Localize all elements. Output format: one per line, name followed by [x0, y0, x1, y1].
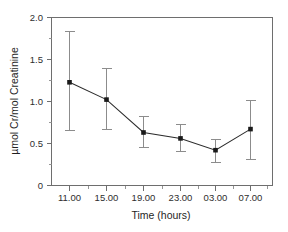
- data-point-1: [67, 80, 72, 85]
- series-line-creatinine: [70, 82, 251, 150]
- x-tick-label-07.00: 07.00: [239, 192, 263, 203]
- marker-group: [67, 80, 253, 153]
- x-tick-label-15.00: 15.00: [95, 192, 119, 203]
- data-point-6: [248, 127, 253, 132]
- data-point-5: [213, 148, 218, 153]
- x-tick-label-11.00: 11.00: [58, 192, 81, 203]
- data-point-3: [141, 130, 146, 135]
- x-tick-label-19.00: 19.00: [132, 192, 156, 203]
- y-axis-title: µmol Cr/mol Creatinine: [8, 47, 20, 155]
- x-axis-title: Time (hours): [131, 209, 190, 221]
- x-tick-label-23.00: 23.00: [169, 192, 193, 203]
- y-tick-label-0.5: 0.5: [30, 138, 43, 149]
- chart-figure: 2.0 1.5 1.0 0.5 0 11.00 15.00 19.00 23.0…: [0, 0, 288, 232]
- data-point-4: [178, 136, 183, 141]
- line-chart-plot: 2.0 1.5 1.0 0.5 0 11.00 15.00 19.00 23.0…: [0, 0, 288, 232]
- y-tick-label-1.5: 1.5: [30, 54, 43, 65]
- data-point-2: [104, 97, 109, 102]
- y-tick-label-0: 0: [38, 180, 43, 191]
- x-tick-label-03.00: 03.00: [204, 192, 228, 203]
- y-tick-label-1.0: 1.0: [30, 96, 43, 107]
- y-tick-label-2.0: 2.0: [30, 12, 43, 23]
